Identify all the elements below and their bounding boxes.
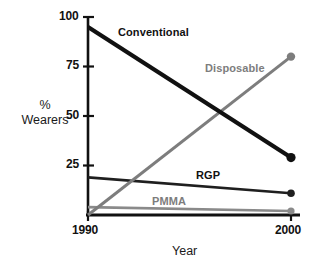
chart-plot-area	[0, 0, 318, 268]
series-endpoint-pmma	[287, 207, 294, 214]
x-tick-label-2000: 2000	[275, 224, 301, 236]
y-axis-title-line1: %	[14, 98, 76, 113]
series-line-pmma	[88, 207, 291, 211]
y-tick-label-100: 100	[59, 10, 78, 22]
y-tick-label-75: 75	[66, 59, 79, 71]
y-tick-label-25: 25	[66, 158, 79, 170]
series-label-conventional: Conventional	[118, 27, 189, 38]
series-label-disposable: Disposable	[205, 63, 265, 74]
line-chart: 100 75 50 25 1990 2000 % Wearers Year Co…	[0, 0, 318, 268]
series-endpoint-conventional	[286, 153, 295, 162]
series-label-pmma: PMMA	[152, 196, 186, 207]
series-label-rgp: RGP	[196, 170, 220, 181]
x-tick-label-1990: 1990	[72, 224, 98, 236]
y-axis-title-line2: Wearers	[14, 113, 76, 128]
series-endpoint-disposable	[287, 52, 295, 60]
series-line-conventional	[88, 27, 291, 158]
y-axis-title: % Wearers	[14, 98, 76, 128]
series-endpoint-rgp	[287, 189, 295, 197]
x-axis-title: Year	[172, 245, 197, 258]
